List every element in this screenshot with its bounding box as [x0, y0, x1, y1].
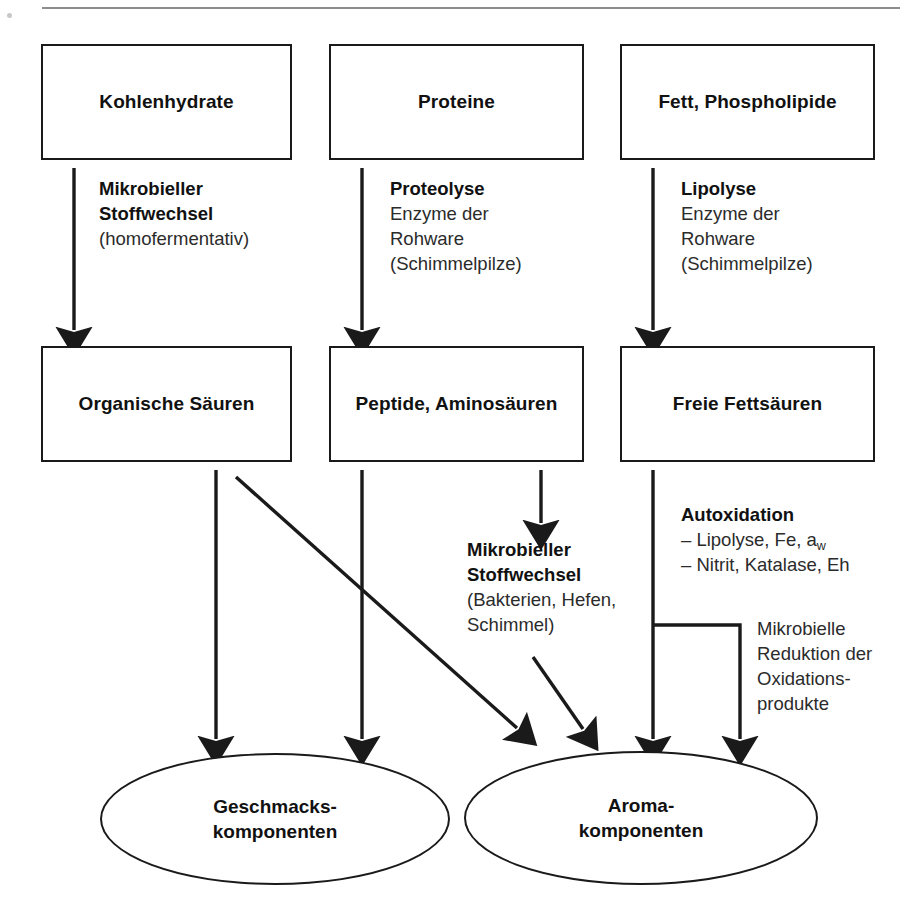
- annotation-heading-line-1: Mikrobieller: [467, 537, 616, 562]
- annotation-line-1: Mikrobielle: [757, 616, 872, 641]
- node-label: Peptide, Aminosäuren: [356, 393, 558, 415]
- node-kohlenhydrate[interactable]: Kohlenhydrate: [41, 44, 292, 160]
- annotation-lipolyse: Lipolyse Enzyme der Rohware (Schimmelpil…: [681, 176, 813, 277]
- node-label: Proteine: [418, 91, 495, 113]
- top-rule: [42, 7, 900, 9]
- branch-oxidationsprodukte-to-aroma: [653, 625, 740, 739]
- node-label: Aroma- komponenten: [579, 793, 704, 843]
- annotation-line-1: Enzyme der: [390, 201, 522, 226]
- annotation-line-1: (homofermentativ): [99, 226, 249, 251]
- annotation-line-1: (Bakterien, Hefen,: [467, 587, 616, 612]
- scan-speck: [7, 13, 12, 18]
- annotation-line-3: Oxidations-: [757, 666, 872, 691]
- annotation-autoxidation: Autoxidation – Lipolyse, Fe, aw – Nitrit…: [681, 502, 850, 577]
- node-label-line-1: Aroma-: [608, 795, 675, 816]
- annotation-heading-line-1: Mikrobieller: [99, 176, 249, 201]
- node-label: Organische Säuren: [79, 393, 255, 415]
- annotation-line-2: Rohware: [681, 226, 813, 251]
- annotation-line-1: Enzyme der: [681, 201, 813, 226]
- diagram-canvas: Kohlenhydrate Proteine Fett, Phospholipi…: [0, 0, 924, 924]
- annotation-line-4: produkte: [757, 691, 872, 716]
- node-aromakomponenten[interactable]: Aroma- komponenten: [464, 751, 818, 885]
- annotation-line-3: (Schimmelpilze): [681, 251, 813, 276]
- node-label: Freie Fettsäuren: [673, 393, 822, 415]
- annotation-mikrobielle-reduktion: Mikrobielle Reduktion der Oxidations- pr…: [757, 616, 872, 717]
- node-fett-phospholipide[interactable]: Fett, Phospholipide: [620, 44, 875, 160]
- node-label-line-2: komponenten: [213, 821, 338, 842]
- node-label: Geschmacks- komponenten: [213, 794, 338, 844]
- annotation-heading-line-1: Lipolyse: [681, 176, 813, 201]
- node-proteine[interactable]: Proteine: [329, 44, 584, 160]
- node-freie-fettsaeuren[interactable]: Freie Fettsäuren: [620, 346, 875, 462]
- node-label-line-1: Geschmacks-: [213, 796, 337, 817]
- annotation-mikrobieller-stoffwechsel-homofermentativ: Mikrobieller Stoffwechsel (homofermentat…: [99, 176, 249, 251]
- annotation-line-2: – Nitrit, Katalase, Eh: [681, 552, 850, 577]
- annotation-line-2: Reduktion der: [757, 641, 872, 666]
- annotation-line-3: (Schimmelpilze): [390, 251, 522, 276]
- node-peptide-aminosaeuren[interactable]: Peptide, Aminosäuren: [329, 346, 584, 462]
- annotation-line-1: – Lipolyse, Fe, aw: [681, 527, 850, 552]
- annotation-heading-line-2: Stoffwechsel: [99, 201, 249, 226]
- annotation-line-2: Rohware: [390, 226, 522, 251]
- node-geschmackskomponenten[interactable]: Geschmacks- komponenten: [100, 753, 450, 885]
- annotation-line-2: Schimmel): [467, 612, 616, 637]
- node-organische-saeuren[interactable]: Organische Säuren: [41, 346, 292, 462]
- arrow-mikrobieller-to-aroma: [533, 657, 583, 729]
- annotation-mikrobieller-stoffwechsel-bakterien: Mikrobieller Stoffwechsel (Bakterien, He…: [467, 537, 616, 638]
- annotation-heading-line-2: Stoffwechsel: [467, 562, 616, 587]
- annotation-proteolyse: Proteolyse Enzyme der Rohware (Schimmelp…: [390, 176, 522, 277]
- annotation-heading-line-1: Autoxidation: [681, 502, 850, 527]
- node-label: Fett, Phospholipide: [658, 91, 836, 113]
- node-label: Kohlenhydrate: [99, 91, 233, 113]
- node-label-line-2: komponenten: [579, 820, 704, 841]
- annotation-heading-line-1: Proteolyse: [390, 176, 522, 201]
